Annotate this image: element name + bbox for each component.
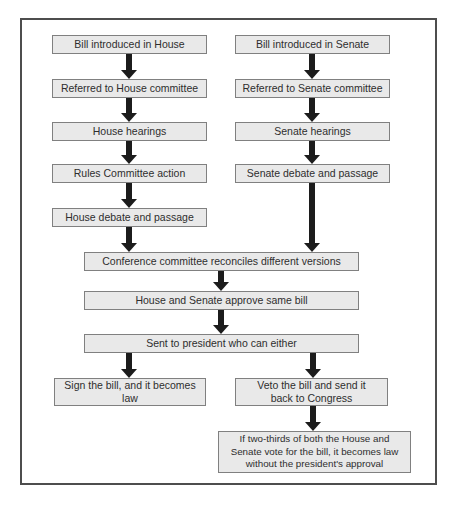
flow-box-sign-outcome: Sign the bill, and it becomes law [54, 378, 206, 406]
down-arrow-house-1 [121, 54, 138, 79]
flow-box-label-line: Sign the bill, and it becomes [64, 379, 195, 392]
down-arrow-senate-4 [304, 183, 321, 252]
flow-box-label: Bill introduced in House [74, 38, 184, 51]
flow-box-label: Referred to Senate committee [242, 82, 382, 95]
down-arrow-merged-2 [213, 310, 230, 334]
flow-box-label: Rules Committee action [74, 167, 185, 180]
down-arrow-veto-override [305, 406, 322, 431]
flow-box-label: Referred to House committee [61, 82, 198, 95]
flow-box-label-line: law [122, 392, 138, 405]
down-arrow-senate-1 [304, 54, 321, 79]
flow-box-label-line: back to Congress [271, 392, 353, 405]
flow-box-referred-house-committee: Referred to House committee [52, 79, 207, 98]
flow-box-bill-introduced-house: Bill introduced in House [52, 35, 207, 54]
flow-box-label: House debate and passage [65, 211, 193, 224]
flow-box-override-outcome: If two-thirds of both the House and Sena… [218, 431, 411, 473]
flow-box-label: Senate hearings [274, 125, 350, 138]
flow-box-referred-senate-committee: Referred to Senate committee [235, 79, 390, 98]
flow-box-house-debate-passage: House debate and passage [52, 208, 207, 227]
flow-box-label-line: Senate vote for the bill, it becomes law [231, 446, 399, 459]
down-arrow-house-5 [121, 227, 138, 252]
flow-box-label: House and Senate approve same bill [135, 294, 307, 307]
down-arrow-president-veto [305, 353, 322, 378]
flowchart-frame: Bill introduced in House Referred to Hou… [20, 18, 437, 485]
flow-box-veto-outcome: Veto the bill and send it back to Congre… [235, 378, 388, 406]
flow-box-label-line: without the president's approval [246, 458, 383, 471]
flowchart-canvas: Bill introduced in House Referred to Hou… [0, 0, 455, 507]
flow-box-conference-committee: Conference committee reconciles differen… [84, 252, 359, 271]
flow-box-label-line: If two-thirds of both the House and [240, 433, 390, 446]
flow-box-bill-introduced-senate: Bill introduced in Senate [235, 35, 390, 54]
down-arrow-merged-1 [213, 271, 230, 291]
down-arrow-senate-3 [304, 141, 321, 164]
flow-box-label: House hearings [93, 125, 167, 138]
flow-box-house-hearings: House hearings [52, 122, 207, 141]
flow-box-label-line: Veto the bill and send it [257, 379, 366, 392]
flow-box-label: Conference committee reconciles differen… [102, 255, 341, 268]
flow-box-senate-hearings: Senate hearings [235, 122, 390, 141]
down-arrow-house-3 [121, 141, 138, 164]
flow-box-label: Sent to president who can either [146, 337, 297, 350]
flow-box-senate-debate-passage: Senate debate and passage [235, 164, 390, 183]
flow-box-approve-same-bill: House and Senate approve same bill [84, 291, 359, 310]
flow-box-rules-committee-action: Rules Committee action [52, 164, 207, 183]
down-arrow-president-sign [121, 353, 138, 378]
down-arrow-house-4 [121, 183, 138, 208]
down-arrow-house-2 [121, 98, 138, 122]
down-arrow-senate-2 [304, 98, 321, 122]
flow-box-label: Senate debate and passage [247, 167, 378, 180]
flow-box-sent-to-president: Sent to president who can either [84, 334, 359, 353]
flow-box-label: Bill introduced in Senate [256, 38, 369, 51]
